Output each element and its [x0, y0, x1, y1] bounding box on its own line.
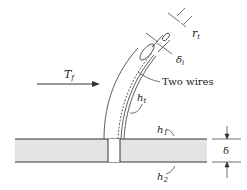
svg-text:Tf: Tf: [64, 68, 75, 82]
ht-leader: [130, 104, 142, 113]
flow-arrow: [37, 81, 100, 87]
svg-text:h1: h1: [157, 124, 168, 137]
svg-text:ht: ht: [137, 92, 146, 105]
two-wires-label: Two wires: [162, 76, 214, 87]
two-wires-leader: [138, 72, 160, 82]
svg-text:δi: δi: [176, 54, 184, 67]
svg-text:rt: rt: [192, 27, 200, 41]
rt-dimension: [168, 8, 192, 27]
thickness-label: δ: [223, 145, 229, 156]
plate-hole: [108, 139, 120, 162]
thermocouple-diagram: Tf rt δi Two wires ht h1 h2 δ: [0, 0, 247, 190]
svg-text:h2: h2: [157, 171, 168, 184]
thermocouple-wires: [104, 32, 171, 139]
